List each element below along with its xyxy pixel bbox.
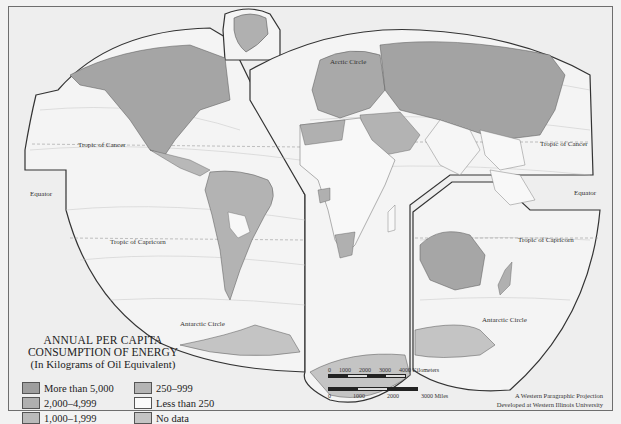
legend-title-line2: CONSUMPTION OF ENERGY bbox=[14, 346, 192, 358]
legend-label: No data bbox=[156, 413, 189, 424]
legend-label: More than 5,000 bbox=[44, 383, 114, 394]
mile-tick: 1000 bbox=[353, 393, 365, 399]
mile-tick: 2000 bbox=[387, 393, 399, 399]
legend: More than 5,000 250–999 2,000–4,999 Less… bbox=[22, 382, 234, 424]
legend-item-less-than-250: Less than 250 bbox=[134, 397, 234, 409]
legend-item-2000-4999: 2,000–4,999 bbox=[22, 397, 134, 409]
tropic-cancer-label-east: Tropic of Cancer bbox=[540, 140, 588, 148]
legend-label: 1,000–1,999 bbox=[44, 413, 97, 424]
projection-credit: A Western Paragraphic Projection Develop… bbox=[497, 391, 603, 409]
antarctic-circle-label-east: Antarctic Circle bbox=[482, 316, 527, 324]
mile-tick: 3000 Miles bbox=[421, 393, 448, 399]
arctic-circle-label: Arctic Circle bbox=[330, 58, 366, 66]
legend-swatch bbox=[134, 397, 152, 409]
tropic-capricorn-label-west: Tropic of Capricorn bbox=[110, 238, 166, 246]
km-tick: 1000 bbox=[339, 367, 351, 373]
km-tick: 3000 bbox=[379, 367, 391, 373]
mile-scale-bar bbox=[328, 387, 418, 391]
credit-line2: Developed at Western Illinois University bbox=[497, 400, 603, 409]
legend-title-line1: ANNUAL PER CAPITA bbox=[14, 334, 192, 346]
legend-label: 2,000–4,999 bbox=[44, 398, 97, 409]
legend-label: Less than 250 bbox=[156, 398, 214, 409]
antarctic-circle-label-west: Antarctic Circle bbox=[180, 320, 225, 328]
legend-item-1000-1999: 1,000–1,999 bbox=[22, 412, 134, 424]
legend-swatch bbox=[22, 397, 40, 409]
legend-title: ANNUAL PER CAPITA CONSUMPTION OF ENERGY … bbox=[14, 334, 192, 370]
km-tick: 2000 bbox=[359, 367, 371, 373]
legend-swatch bbox=[134, 412, 152, 424]
mile-scale-labels: 0 1000 2000 3000 Miles bbox=[328, 393, 448, 399]
credit-line1: A Western Paragraphic Projection bbox=[497, 391, 603, 400]
equator-label-west: Equator bbox=[30, 190, 52, 198]
legend-swatch bbox=[134, 382, 152, 394]
km-scale-labels: 0 1000 2000 3000 4000 Kilometers bbox=[328, 367, 448, 373]
legend-item-more-than-5000: More than 5,000 bbox=[22, 382, 134, 394]
equator-label-east: Equator bbox=[574, 189, 596, 197]
km-tick: 4000 Kilometers bbox=[399, 367, 439, 373]
legend-swatch bbox=[22, 382, 40, 394]
legend-swatch bbox=[22, 412, 40, 424]
km-tick: 0 bbox=[328, 367, 331, 373]
tropic-capricorn-label-east: Tropic of Capricorn bbox=[518, 236, 574, 244]
legend-item-250-999: 250–999 bbox=[134, 382, 234, 394]
tropic-cancer-label-west: Tropic of Cancer bbox=[78, 141, 126, 149]
scale-bar: 0 1000 2000 3000 4000 Kilometers 0 1000 … bbox=[328, 367, 448, 399]
km-scale-bar bbox=[328, 374, 406, 378]
legend-label: 250–999 bbox=[156, 383, 193, 394]
legend-item-no-data: No data bbox=[134, 412, 234, 424]
mile-tick: 0 bbox=[328, 393, 331, 399]
legend-title-line3: (In Kilograms of Oil Equivalent) bbox=[14, 358, 192, 370]
